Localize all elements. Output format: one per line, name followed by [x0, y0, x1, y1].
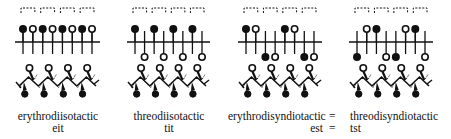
hashed-bond: [295, 74, 298, 79]
filled-substituent-icon: [394, 91, 400, 97]
open-substituent-icon: [45, 65, 51, 71]
repeat-unit-bracket: [190, 8, 204, 13]
chain-end: [204, 80, 209, 84]
filled-substituent-icon: [302, 91, 308, 97]
hashed-bond: [92, 74, 95, 79]
repeat-unit-bracket: [302, 8, 316, 13]
chain-end: [316, 80, 321, 84]
caption-abbr: eit: [2, 122, 114, 134]
hashed-bond: [406, 74, 409, 79]
caption-name: erythrodisyndiotactic: [228, 110, 323, 122]
filled-substituent-icon: [243, 26, 249, 32]
caption-threodiisotactic: threodiisotactic tit: [113, 110, 225, 134]
caption-abbr: tst: [350, 122, 450, 134]
hashed-bond: [165, 74, 168, 79]
chain-end: [94, 80, 99, 84]
repeat-unit-bracket: [133, 8, 147, 13]
open-substituent-icon: [311, 54, 317, 60]
repeat-unit-bracket: [80, 8, 94, 13]
wedge-bond: [395, 82, 399, 91]
filled-substituent-icon: [282, 26, 288, 32]
open-substituent-icon: [291, 26, 297, 32]
hashed-bond: [202, 74, 205, 79]
caption-name: threodisyndiotactic: [350, 110, 450, 122]
wedge-bond: [172, 82, 176, 91]
filled-substituent-icon: [356, 91, 362, 97]
open-substituent-icon: [422, 54, 428, 60]
filled-substituent-icon: [301, 54, 307, 60]
open-substituent-icon: [161, 54, 167, 60]
filled-substituent-icon: [79, 26, 85, 32]
filled-substituent-icon: [375, 91, 381, 97]
open-substituent-icon: [268, 65, 274, 71]
filled-substituent-icon: [59, 26, 65, 32]
open-substituent-icon: [306, 65, 312, 71]
filled-substituent-icon: [190, 91, 196, 97]
open-substituent-icon: [65, 65, 71, 71]
wedge-bond: [81, 82, 85, 91]
filled-substituent-icon: [20, 26, 26, 32]
hashed-bond: [425, 74, 428, 79]
hashed-bond: [146, 74, 149, 79]
wedge-bond: [135, 82, 139, 91]
hashed-bond: [184, 74, 187, 79]
open-substituent-icon: [360, 65, 366, 71]
wedge-bond: [284, 82, 288, 91]
wedge-bond: [61, 82, 65, 91]
filled-substituent-icon: [79, 91, 85, 97]
wedge-bond: [303, 82, 307, 91]
wedge-bond: [23, 82, 27, 91]
caption-threodisyndiotactic: threodisyndiotactic tst: [350, 110, 450, 134]
hashed-bond: [54, 74, 57, 79]
filled-substituent-icon: [189, 26, 195, 32]
filled-substituent-icon: [412, 26, 418, 32]
filled-substituent-icon: [354, 54, 360, 60]
hashed-bond: [34, 74, 37, 79]
filled-substituent-icon: [170, 26, 176, 32]
zigzag-chain: [19, 77, 96, 86]
zigzag-chain: [353, 77, 429, 86]
open-substituent-icon: [138, 65, 144, 71]
repeat-unit-bracket: [394, 8, 408, 13]
zigzag-chain: [131, 77, 206, 86]
equals-sign: = =: [329, 110, 336, 134]
wedge-bond: [357, 82, 361, 91]
open-substituent-icon: [26, 65, 32, 71]
open-substituent-icon: [383, 54, 389, 60]
open-substituent-icon: [30, 26, 36, 32]
filled-substituent-icon: [60, 91, 66, 97]
wedge-bond: [265, 82, 269, 91]
open-substituent-icon: [199, 54, 205, 60]
open-substituent-icon: [141, 54, 147, 60]
wedge-bond: [414, 82, 418, 91]
open-substituent-icon: [180, 54, 186, 60]
wedge-bond: [191, 82, 195, 91]
filled-substituent-icon: [151, 26, 157, 32]
filled-substituent-icon: [152, 91, 158, 97]
hashed-bond: [368, 74, 371, 79]
repeat-unit-bracket: [374, 8, 388, 13]
hashed-bond: [387, 74, 390, 79]
open-substituent-icon: [69, 26, 75, 32]
caption-erythrodisyndiotactic: erythrodisyndiotactic est: [228, 110, 323, 134]
repeat-unit-bracket: [263, 8, 277, 13]
repeat-unit-bracket: [244, 8, 258, 13]
caption-name: threodiisotactic: [113, 110, 225, 122]
filled-substituent-icon: [373, 26, 379, 32]
caption-abbr: tit: [113, 122, 225, 134]
repeat-unit-bracket: [41, 8, 55, 13]
open-substituent-icon: [157, 65, 163, 71]
wedge-bond: [153, 82, 157, 91]
filled-substituent-icon: [262, 54, 268, 60]
open-substituent-icon: [364, 26, 370, 32]
hashed-bond: [276, 74, 279, 79]
caption-abbr: est: [228, 122, 323, 134]
repeat-unit-bracket: [413, 8, 427, 13]
repeat-unit-bracket: [283, 8, 297, 13]
open-substituent-icon: [89, 26, 95, 32]
filled-substituent-icon: [133, 91, 139, 97]
filled-substituent-icon: [40, 26, 46, 32]
open-substituent-icon: [402, 26, 408, 32]
filled-substituent-icon: [245, 91, 251, 97]
repeat-unit-bracket: [21, 8, 35, 13]
